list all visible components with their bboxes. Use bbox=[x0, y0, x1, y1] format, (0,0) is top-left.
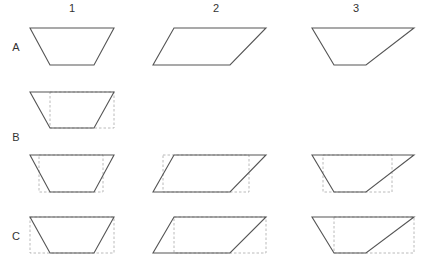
column-label-2: 2 bbox=[213, 2, 219, 14]
shape-c3 bbox=[312, 217, 414, 253]
column-label-3: 3 bbox=[353, 2, 359, 14]
shape-c1 bbox=[30, 217, 114, 253]
column-label-1: 1 bbox=[69, 2, 75, 14]
diagram-canvas: 1 2 3 A B C bbox=[0, 0, 427, 267]
row-label-c: C bbox=[12, 230, 20, 242]
shape-a1 bbox=[30, 28, 114, 65]
shape-a2 bbox=[153, 28, 266, 65]
guide-rect-c1 bbox=[30, 217, 114, 253]
guide-rect-c2 bbox=[174, 217, 266, 253]
shape-a1-extra bbox=[30, 92, 114, 128]
shape-c2 bbox=[153, 217, 266, 253]
row-label-a: A bbox=[12, 41, 20, 53]
guide-rect-b1 bbox=[39, 155, 103, 192]
shape-b3 bbox=[312, 155, 414, 192]
row-label-b: B bbox=[12, 131, 19, 143]
labels-layer: 1 2 3 A B C bbox=[12, 2, 359, 242]
shape-b1 bbox=[30, 155, 114, 192]
guides-layer bbox=[30, 92, 414, 253]
shapes-layer bbox=[30, 28, 414, 253]
shape-a3 bbox=[312, 28, 414, 65]
guide-rect-b3 bbox=[323, 155, 392, 192]
